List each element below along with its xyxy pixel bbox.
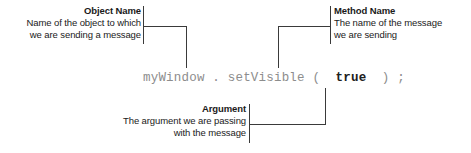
callout-object-name: Object Name Name of the object to which … bbox=[0, 5, 141, 41]
callout-object-name-title: Object Name bbox=[0, 5, 141, 17]
annotated-code-diagram: Object Name Name of the object to which … bbox=[0, 0, 471, 153]
code-space-5 bbox=[366, 71, 381, 85]
callout-object-name-bracket bbox=[143, 6, 144, 44]
callout-argument-title: Argument bbox=[100, 103, 246, 115]
leader-method-name-horizontal bbox=[278, 26, 331, 27]
code-token-argument: true bbox=[336, 71, 367, 85]
code-space-2 bbox=[220, 71, 228, 85]
code-space-4 bbox=[320, 71, 335, 85]
callout-argument: Argument The argument we are passing wit… bbox=[100, 103, 246, 139]
callout-object-name-line-1: Name of the object to which bbox=[0, 17, 141, 29]
callout-method-name: Method Name The name of the message we a… bbox=[334, 5, 471, 41]
leader-object-name-horizontal bbox=[143, 26, 187, 27]
callout-method-name-line-2: we are sending bbox=[334, 29, 471, 41]
callout-method-name-title: Method Name bbox=[334, 5, 471, 17]
code-token-method: setVisible bbox=[228, 71, 305, 85]
code-token-semicolon: ; bbox=[397, 71, 405, 85]
leader-argument-vertical bbox=[325, 88, 326, 125]
code-token-open-paren: ( bbox=[312, 71, 320, 85]
code-token-object: myWindow bbox=[143, 71, 205, 85]
leader-method-name-vertical bbox=[278, 26, 279, 68]
callout-method-name-line-1: The name of the message bbox=[334, 17, 471, 29]
callout-method-name-bracket bbox=[330, 6, 331, 44]
callout-object-name-line-2: we are sending a message bbox=[0, 29, 141, 41]
code-token-dot: . bbox=[212, 71, 220, 85]
code-statement: myWindow . setVisible ( true ) ; bbox=[143, 70, 405, 86]
leader-object-name-vertical bbox=[186, 26, 187, 68]
callout-argument-line-2: with the message bbox=[100, 127, 246, 139]
callout-argument-line-1: The argument we are passing bbox=[100, 115, 246, 127]
leader-argument-horizontal bbox=[249, 124, 326, 125]
